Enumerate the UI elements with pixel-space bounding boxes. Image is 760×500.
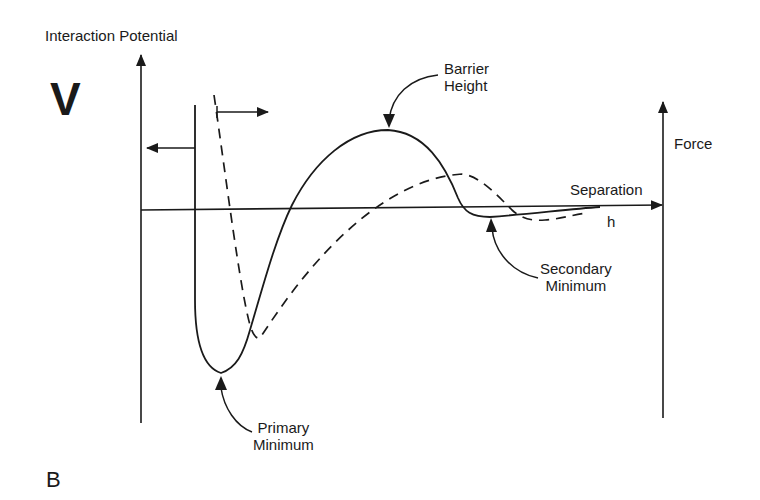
primary-line-1: Primary [253,419,314,436]
potential-symbol: V [50,76,81,122]
barrier-pointer [389,75,438,120]
potential-diagram [0,0,760,500]
panel-label: B [46,468,61,492]
barrier-line-2: Height [444,77,489,94]
secondary-line-1: Secondary [540,260,612,277]
barrier-height-label: Barrier Height [444,60,489,94]
primary-minimum-label: Primary Minimum [253,419,314,453]
primary-pointer [221,388,252,432]
potential-curve [195,105,600,373]
secondary-pointer [492,228,538,278]
secondary-minimum-label: Secondary Minimum [540,260,612,294]
secondary-line-2: Minimum [540,277,612,294]
right-axis-title: Force [674,135,712,152]
secondary-pointer-head [486,218,497,232]
x-axis-title: Separation [570,181,643,198]
primary-line-2: Minimum [253,436,314,453]
barrier-pointer-head [383,114,395,128]
x-axis-symbol: h [607,213,615,230]
primary-pointer-head [215,376,227,390]
barrier-line-1: Barrier [444,60,489,77]
left-axis-title: Interaction Potential [45,27,178,44]
